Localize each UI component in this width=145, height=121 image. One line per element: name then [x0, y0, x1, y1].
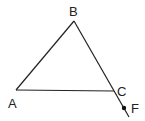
label-f: F	[131, 101, 139, 116]
label-b: B	[69, 4, 78, 19]
segment-ac	[16, 90, 114, 91]
label-c: C	[117, 84, 126, 99]
segment-ab	[16, 21, 74, 90]
label-a: A	[8, 96, 17, 111]
point-f-dot	[122, 106, 126, 110]
triangle-diagram: B A C F	[0, 0, 145, 121]
segment-bc-extended	[74, 21, 129, 117]
